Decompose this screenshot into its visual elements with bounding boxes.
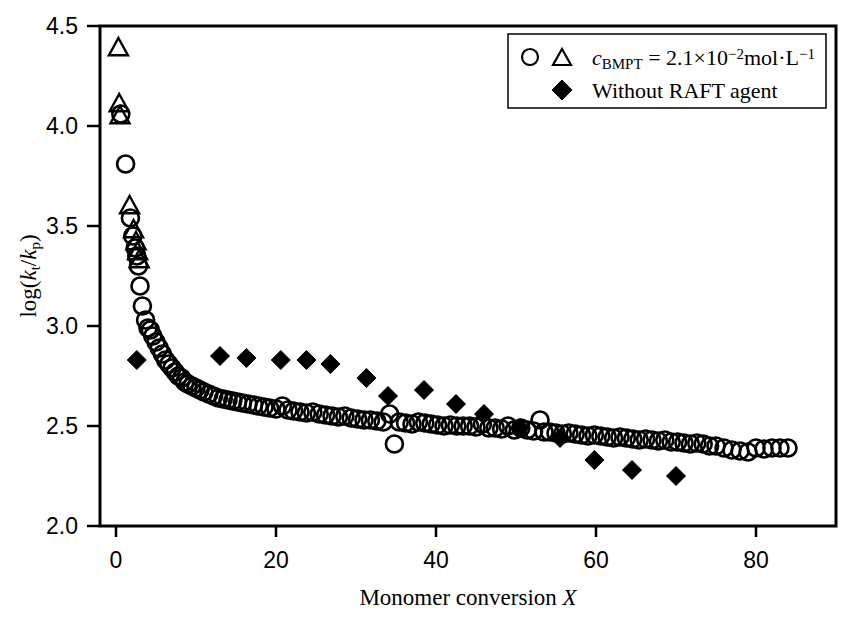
x-axis-title: Monomer conversion X [359,585,577,610]
legend-label-no-raft: Without RAFT agent [592,78,778,103]
chart-legend: cBMPT = 2.1×10−2mol·L−1 Without RAFT age… [508,34,826,108]
y-axis-ticks [87,26,100,526]
y-tick-label: 3.0 [46,313,78,339]
x-tick-label: 60 [583,547,609,573]
x-tick-label: 80 [743,547,769,573]
x-tick-label: 40 [423,547,449,573]
x-axis-tick-labels: 020406080 [110,547,769,573]
y-axis-tick-labels: 2.02.53.03.54.04.5 [46,13,78,539]
x-axis-ticks [116,526,756,537]
y-tick-label: 4.5 [46,13,78,39]
scatter-plot: 020406080 2.02.53.03.54.04.5 Monomer con… [0,0,854,630]
chart-figure: 020406080 2.02.53.03.54.04.5 Monomer con… [0,0,854,630]
x-tick-label: 0 [110,547,123,573]
y-tick-label: 2.0 [46,513,78,539]
x-tick-label: 20 [263,547,289,573]
y-tick-label: 2.5 [46,413,78,439]
y-axis-title: log(kt/kp) [16,234,43,317]
y-tick-label: 4.0 [46,113,78,139]
y-tick-label: 3.5 [46,213,78,239]
